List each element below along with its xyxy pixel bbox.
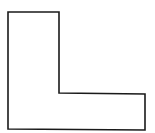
- l-shape-outline: [8, 12, 145, 130]
- l-shape-diagram: [0, 0, 155, 133]
